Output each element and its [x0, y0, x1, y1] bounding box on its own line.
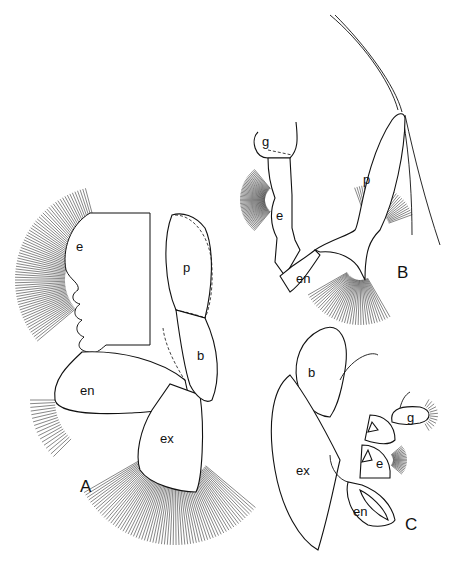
seta: [316, 275, 349, 306]
seta: [430, 416, 438, 417]
seta: [17, 289, 66, 299]
seta: [89, 463, 142, 500]
panel-a-letter: A: [80, 477, 92, 496]
seta: [309, 273, 347, 297]
seta: [32, 413, 56, 419]
seta: [102, 469, 147, 516]
panel-b-long-seta: [335, 15, 402, 112]
panel-c-label-en: en: [353, 504, 367, 519]
panel-c-label-g: g: [407, 410, 414, 425]
panel-a-label-e: e: [76, 239, 83, 254]
panel-b-long-seta: [330, 15, 398, 110]
seta: [320, 276, 350, 310]
seta: [430, 410, 438, 412]
panel-c: b g e ex en C: [271, 327, 438, 550]
seta: [391, 447, 402, 455]
seta: [98, 467, 146, 511]
seta: [318, 276, 349, 308]
seta: [430, 418, 438, 420]
panel-a-label-p: p: [183, 260, 190, 275]
appendage-illustration: e p b en ex A g e p en B: [0, 0, 455, 564]
seta: [30, 405, 55, 407]
seta: [21, 295, 68, 312]
seta: [153, 479, 167, 543]
seta: [84, 460, 140, 493]
seta: [44, 431, 65, 445]
panel-a: e p b en ex A: [15, 188, 255, 545]
panel-b: g e p en B: [240, 15, 440, 325]
seta: [15, 283, 65, 286]
panel-b-label-en: en: [296, 271, 310, 286]
seta: [197, 473, 233, 527]
seta: [308, 273, 347, 296]
seta: [109, 471, 150, 521]
seta: [35, 308, 74, 339]
panel-a-endite-outline: [65, 213, 150, 353]
seta: [366, 279, 385, 320]
seta: [34, 307, 74, 337]
seta: [15, 281, 65, 282]
panel-a-label-b: b: [197, 348, 204, 363]
panel-b-letter: B: [397, 263, 408, 282]
panel-c-label-b: b: [308, 365, 315, 380]
panel-b-label-e: e: [276, 208, 283, 223]
panel-a-label-en: en: [80, 383, 94, 398]
seta: [430, 413, 438, 414]
panel-c-letter: C: [405, 515, 417, 534]
seta: [30, 403, 55, 404]
seta: [46, 433, 66, 448]
seta: [391, 465, 402, 473]
seta: [21, 248, 68, 265]
panel-a-label-ex: ex: [160, 431, 174, 446]
seta: [173, 480, 174, 545]
panel-b-label-g: g: [262, 134, 269, 149]
panel-c-label-e: e: [376, 456, 383, 471]
seta: [42, 429, 63, 442]
seta: [86, 461, 141, 495]
panel-b-g-lobe-outline: [254, 122, 297, 158]
seta: [33, 415, 57, 422]
seta: [170, 480, 173, 545]
seta: [393, 459, 407, 460]
seta: [15, 277, 65, 278]
seta: [15, 274, 65, 277]
panel-b-label-p: p: [363, 172, 370, 187]
seta: [48, 435, 67, 451]
seta: [360, 280, 361, 325]
seta: [196, 474, 231, 529]
seta: [17, 261, 66, 271]
seta: [90, 464, 142, 503]
seta: [31, 410, 56, 415]
seta: [388, 212, 411, 222]
seta: [92, 465, 143, 505]
seta: [53, 439, 71, 457]
seta: [51, 437, 69, 454]
seta: [203, 469, 248, 516]
panel-b-endite-outline: [268, 158, 300, 276]
seta: [40, 427, 62, 439]
panel-c-g-stalk: [400, 392, 410, 408]
seta: [393, 460, 407, 461]
seta: [32, 306, 73, 335]
panel-c-label-ex: ex: [296, 463, 310, 478]
seta: [116, 473, 153, 527]
seta: [31, 408, 56, 411]
seta: [87, 462, 141, 498]
